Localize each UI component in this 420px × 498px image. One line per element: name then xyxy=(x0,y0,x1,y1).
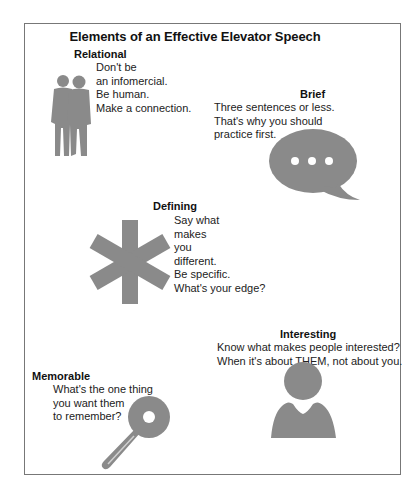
diagram-title: Elements of an Effective Elevator Speech xyxy=(0,29,390,44)
defining-line: you xyxy=(174,241,265,255)
defining-line: Say what xyxy=(174,214,265,228)
relational-line: Don't be xyxy=(96,61,191,75)
key-icon xyxy=(96,392,176,474)
defining-text: Say what makes you different. Be specifi… xyxy=(174,214,265,296)
brief-line: That's why you should xyxy=(214,115,334,129)
defining-line: makes xyxy=(174,228,265,242)
relational-heading: Relational xyxy=(74,48,127,60)
two-people-icon xyxy=(48,72,96,160)
interesting-heading: Interesting xyxy=(280,328,336,340)
interesting-line: Know what makes people interested? xyxy=(217,341,402,355)
brief-line: Three sentences or less. xyxy=(214,101,334,115)
relational-text: Don't be an infomercial. Be human. Make … xyxy=(96,61,191,115)
defining-heading: Defining xyxy=(153,200,197,212)
defining-line: Be specific. xyxy=(174,268,265,282)
relational-line: Make a connection. xyxy=(96,102,191,116)
relational-line: Be human. xyxy=(96,88,191,102)
asterisk-icon xyxy=(88,219,172,305)
relational-line: an infomercial. xyxy=(96,75,191,89)
defining-line: What's your edge? xyxy=(174,282,265,296)
brief-heading: Brief xyxy=(300,88,325,100)
person-icon xyxy=(270,362,340,440)
speech-bubble-icon xyxy=(268,128,364,204)
defining-line: different. xyxy=(174,255,265,269)
memorable-heading: Memorable xyxy=(32,370,90,382)
